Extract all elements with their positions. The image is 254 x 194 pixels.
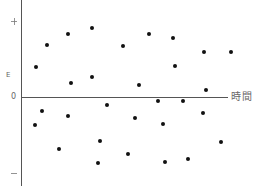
data-point [90,26,94,30]
data-point [137,83,141,87]
data-point [219,140,223,144]
data-point [121,44,125,48]
data-point [126,152,130,156]
data-point [186,157,190,161]
data-point [171,36,175,40]
data-point [98,139,102,143]
data-point [66,32,70,36]
data-point [57,147,61,151]
data-point [204,88,208,92]
data-point [34,65,38,69]
data-point [105,103,109,107]
data-point [133,116,137,120]
data-point [163,160,167,164]
data-point [173,64,177,68]
data-point [66,114,70,118]
data-point [96,161,100,165]
data-point [202,50,206,54]
data-points [33,26,233,165]
data-point [90,75,94,79]
data-point [156,99,160,103]
data-point [33,123,37,127]
y-tick-zero: 0 [11,93,16,101]
data-point [161,122,165,126]
data-point [45,43,49,47]
y-label-e: E [6,72,10,79]
data-point [40,109,44,113]
x-axis-label: 時間 [231,92,252,102]
data-point [229,50,233,54]
scatter-chart [0,0,254,194]
data-point [69,81,73,85]
data-point [181,99,185,103]
data-point [147,32,151,36]
data-point [201,111,205,115]
